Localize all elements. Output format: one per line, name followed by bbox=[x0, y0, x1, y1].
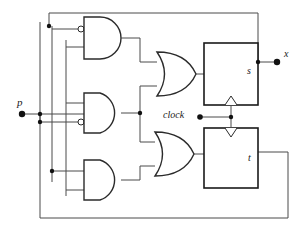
junction-dot-p-rail bbox=[38, 112, 42, 116]
circuit-svg bbox=[0, 0, 303, 240]
or-gate-bottom bbox=[155, 132, 194, 176]
wire-and2-out bbox=[121, 86, 157, 113]
or-gate-top bbox=[157, 52, 196, 96]
junction-dot-and2-bottom bbox=[38, 120, 42, 124]
label-flipflop-s: s bbox=[247, 65, 251, 76]
junction-dot-and2-out bbox=[138, 111, 142, 115]
terminal-dot-clock bbox=[197, 114, 203, 120]
junction-dot-and3-top bbox=[50, 169, 54, 173]
inverter-bubble-and1-top bbox=[78, 26, 84, 32]
and-gate-bottom bbox=[84, 160, 115, 200]
label-clock: clock bbox=[163, 109, 184, 120]
junction-dot-and1-top bbox=[47, 24, 51, 28]
junction-dot-clock-split bbox=[229, 115, 233, 119]
and-gate-middle bbox=[84, 93, 115, 133]
wire-and3-out bbox=[121, 166, 155, 180]
wire-and2-out-branch bbox=[140, 113, 155, 142]
terminal-dot-p bbox=[19, 111, 25, 117]
terminal-dot-x bbox=[274, 59, 280, 65]
label-flipflop-t: t bbox=[248, 152, 251, 163]
label-output-x: x bbox=[284, 48, 288, 59]
and-gate-top bbox=[84, 17, 121, 59]
label-input-p: p bbox=[17, 96, 23, 108]
junction-dot-s-out bbox=[256, 60, 260, 64]
inverter-bubble-and2-bottom bbox=[78, 119, 84, 125]
wire-and1-out bbox=[121, 38, 157, 62]
circuit-diagram: p x clock s t bbox=[0, 0, 303, 240]
